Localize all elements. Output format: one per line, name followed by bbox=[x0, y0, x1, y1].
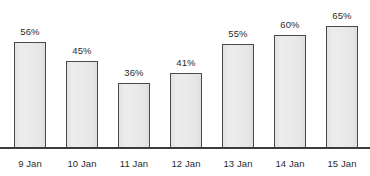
bar-value-label: 56% bbox=[20, 26, 39, 37]
bar-group-6: 65% bbox=[326, 0, 358, 149]
bar-value-label: 55% bbox=[228, 28, 247, 39]
bar-chart: 56% 45% 36% 41% 55% 60% 65% bbox=[0, 0, 370, 176]
bar-value-label: 36% bbox=[124, 67, 143, 78]
bar-value-label: 45% bbox=[72, 45, 91, 56]
bar-value-label: 65% bbox=[332, 10, 351, 21]
bar-rect[interactable] bbox=[326, 26, 358, 149]
plot-area: 56% 45% 36% 41% 55% 60% 65% bbox=[0, 0, 370, 149]
bar-rect[interactable] bbox=[118, 83, 150, 149]
bar-rect[interactable] bbox=[170, 73, 202, 149]
bar-group-5: 60% bbox=[274, 0, 306, 149]
bar-rect[interactable] bbox=[14, 42, 46, 149]
bar-group-2: 36% bbox=[118, 0, 150, 149]
bar-rect[interactable] bbox=[274, 35, 306, 149]
bar-rect[interactable] bbox=[222, 44, 254, 149]
bar-rect[interactable] bbox=[66, 61, 98, 149]
bar-value-label: 60% bbox=[280, 19, 299, 30]
x-axis-tick-label: 11 Jan bbox=[120, 158, 148, 169]
x-axis-tick-label: 10 Jan bbox=[67, 158, 96, 169]
bar-group-3: 41% bbox=[170, 0, 202, 149]
x-axis-tick-label: 9 Jan bbox=[18, 158, 42, 169]
x-axis-tick-label: 15 Jan bbox=[327, 158, 356, 169]
bar-value-label: 41% bbox=[176, 57, 195, 68]
x-axis-labels: 9 Jan 10 Jan 11 Jan 12 Jan 13 Jan 14 Jan… bbox=[0, 149, 370, 176]
bar-group-1: 45% bbox=[66, 0, 98, 149]
x-axis-tick-label: 14 Jan bbox=[275, 158, 304, 169]
bar-group-0: 56% bbox=[14, 0, 46, 149]
x-axis-tick-label: 13 Jan bbox=[223, 158, 252, 169]
x-axis-tick-label: 12 Jan bbox=[171, 158, 200, 169]
bar-group-4: 55% bbox=[222, 0, 254, 149]
